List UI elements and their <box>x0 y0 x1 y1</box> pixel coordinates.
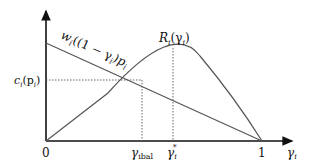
x-axis-label: γi <box>287 146 297 161</box>
origin-label: 0 <box>42 146 50 160</box>
gamma-star-label: γi* <box>167 143 177 161</box>
x-end-label: 1 <box>258 146 266 160</box>
diagram-canvas: wi((1 − γi)pi Ri(γi) ci(pi) 0 1 γibal γi… <box>0 0 310 166</box>
wage-line <box>46 43 262 141</box>
cost-label: ci(pi) <box>14 74 40 89</box>
gamma-bal-label: γibal <box>131 146 154 161</box>
revenue-curve-label: Ri(γi) <box>158 31 190 47</box>
